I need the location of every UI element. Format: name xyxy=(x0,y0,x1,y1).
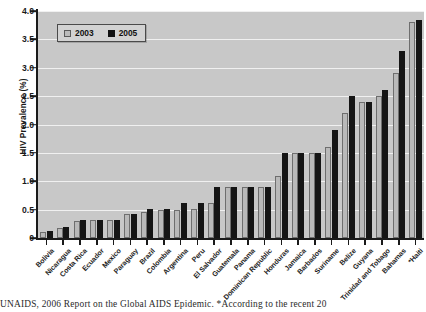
bar-2003 xyxy=(174,210,180,238)
x-tick-mark xyxy=(197,240,199,245)
y-tick-mark xyxy=(30,152,37,154)
bar-group xyxy=(275,11,288,238)
bar-2003 xyxy=(292,153,298,238)
bar-group xyxy=(57,11,70,238)
x-tick-mark xyxy=(281,240,283,245)
x-tick-label: Honduras xyxy=(263,247,291,276)
x-tick-mark xyxy=(130,240,132,245)
x-tick-label: Ecuador xyxy=(81,247,106,273)
x-tick-label: Suriname xyxy=(313,247,341,276)
x-tick-label: Guatemala xyxy=(210,247,240,279)
x-tick-label: Dominican Republic xyxy=(222,247,274,302)
bar-group xyxy=(242,11,255,238)
x-tick-label: *Haiti xyxy=(407,247,425,266)
bar-2005 xyxy=(265,187,271,238)
bar-2005 xyxy=(416,20,422,238)
bar-2003 xyxy=(242,187,248,238)
bar-2005 xyxy=(164,209,170,239)
y-tick-mark xyxy=(30,237,37,239)
x-tick-label: Guyana xyxy=(351,247,374,271)
bar-2005 xyxy=(147,209,153,239)
x-tick-mark xyxy=(297,240,299,245)
x-tick-mark xyxy=(381,240,383,245)
x-tick-mark xyxy=(348,240,350,245)
x-tick-label: Jamaica xyxy=(283,247,308,273)
bar-2005 xyxy=(131,214,137,238)
x-tick-mark xyxy=(79,240,81,245)
bar-group xyxy=(376,11,389,238)
x-tick-mark xyxy=(247,240,249,245)
x-tick-label: Nicaragua xyxy=(44,247,73,277)
bar-group xyxy=(141,11,154,238)
bar-group xyxy=(107,11,120,238)
bar-group xyxy=(158,11,171,238)
x-tick-mark xyxy=(364,240,366,245)
x-tick-mark xyxy=(331,240,333,245)
bar-2003 xyxy=(90,220,96,238)
bar-2003 xyxy=(191,209,197,239)
bar-2003 xyxy=(141,212,147,238)
x-tick-label: Barbados xyxy=(296,247,324,276)
y-tick-mark xyxy=(30,95,37,97)
x-tick-label: Costa Rica xyxy=(59,247,90,279)
x-tick-mark xyxy=(163,240,165,245)
bar-group xyxy=(225,11,238,238)
bar-2003 xyxy=(225,187,231,238)
x-tick-label: Belize xyxy=(338,247,358,267)
bar-2003 xyxy=(393,73,399,238)
bar-2005 xyxy=(366,102,372,238)
bar-group xyxy=(208,11,221,238)
plot-area xyxy=(38,11,424,238)
x-tick-label: Mexico xyxy=(101,247,123,270)
legend-swatch-2003-icon xyxy=(64,30,71,37)
bar-2003 xyxy=(107,220,113,238)
bar-group xyxy=(258,11,271,238)
bar-2003 xyxy=(376,96,382,238)
bar-2005 xyxy=(114,220,120,238)
bar-2003 xyxy=(208,203,214,238)
bar-group xyxy=(393,11,406,238)
legend-label-2003: 2003 xyxy=(75,28,94,38)
bar-group xyxy=(74,11,87,238)
bar-group xyxy=(359,11,372,238)
bar-group xyxy=(342,11,355,238)
x-tick-mark xyxy=(415,240,417,245)
x-tick-mark xyxy=(146,240,148,245)
bar-group xyxy=(409,11,422,238)
x-tick-label: Colombia xyxy=(146,247,174,276)
bar-2005 xyxy=(231,187,237,238)
bar-group xyxy=(40,11,53,238)
legend-swatch-2005-icon xyxy=(108,30,115,37)
bar-2003 xyxy=(275,176,281,238)
x-tick-mark xyxy=(230,240,232,245)
x-tick-mark xyxy=(113,240,115,245)
figure-caption: UNAIDS, 2006 Report on the Global AIDS E… xyxy=(0,299,426,309)
bar-2005 xyxy=(349,96,355,238)
bar-2003 xyxy=(158,210,164,238)
chart-legend: 2003 2005 xyxy=(57,24,146,42)
hiv-prevalence-figure: HIV Prevalence (%) 00.51.01.52.02.53.03.… xyxy=(0,0,426,312)
bar-2003 xyxy=(309,153,315,238)
bar-2003 xyxy=(258,187,264,238)
bar-2003 xyxy=(359,102,365,238)
x-tick-label: Trinidad and Tobago xyxy=(339,247,391,302)
bar-2005 xyxy=(198,203,204,238)
y-tick-mark xyxy=(30,180,37,182)
x-tick-label: Brazil xyxy=(138,247,157,266)
x-tick-mark xyxy=(180,240,182,245)
legend-label-2005: 2005 xyxy=(119,28,138,38)
x-tick-label: Bolivia xyxy=(34,247,55,269)
y-tick-mark xyxy=(30,10,37,12)
legend-item-2003: 2003 xyxy=(64,28,94,38)
x-tick-label: El Salvador xyxy=(192,247,224,280)
x-tick-mark xyxy=(398,240,400,245)
x-tick-mark xyxy=(314,240,316,245)
x-tick-label: Argentina xyxy=(162,247,190,276)
bar-2003 xyxy=(124,214,130,238)
bar-2005 xyxy=(282,153,288,238)
y-tick-mark xyxy=(30,39,37,41)
bar-2003 xyxy=(342,113,348,238)
bar-2005 xyxy=(63,227,69,238)
bar-group xyxy=(124,11,137,238)
x-tick-mark xyxy=(46,240,48,245)
